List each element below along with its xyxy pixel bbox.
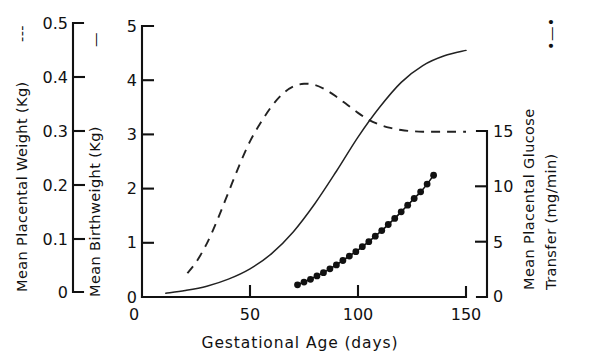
- middle-axis-legend-marker: —: [87, 32, 103, 47]
- series-mean-birthweight: [166, 50, 466, 293]
- x-axis-spine: [142, 287, 466, 297]
- right-axis-spine: [477, 131, 487, 297]
- middle-axis-ticklabel-2: 2: [127, 179, 137, 198]
- right-axis-ticklabel-0: 0: [493, 287, 503, 306]
- left-axis-legend-marker: ---: [14, 25, 30, 42]
- data-point: [411, 195, 418, 202]
- right-axis-title-line1: Mean Placental Glucose: [521, 108, 537, 290]
- data-point: [378, 227, 385, 234]
- data-point: [320, 269, 327, 276]
- chart-canvas: 0.5 0.4 0.3 0.2 0.1 0 Mean Placental Wei…: [0, 0, 591, 360]
- data-point: [346, 253, 353, 260]
- left-axis-spine: [73, 23, 83, 292]
- middle-axis: 5 4 3 2 1 0 Mean Birthweight (Kg) —: [87, 17, 154, 307]
- left-axis-ticklabel-0.1: 0.1: [43, 230, 68, 249]
- data-series-layer: [166, 50, 466, 293]
- middle-axis-title: Mean Birthweight (Kg): [87, 126, 103, 297]
- x-axis-ticklabel-0: 0: [129, 305, 139, 324]
- left-axis-ticklabel-0.5: 0.5: [43, 14, 68, 33]
- data-point: [307, 276, 314, 283]
- left-axis-ticklabel-0.3: 0.3: [43, 122, 68, 141]
- data-point: [404, 202, 411, 209]
- data-point: [314, 273, 321, 280]
- right-axis-ticklabel-15: 15: [493, 122, 513, 141]
- left-axis-ticklabel-0.2: 0.2: [43, 176, 68, 195]
- left-axis-title: Mean Placental Weight (Kg): [14, 81, 30, 292]
- data-point: [391, 215, 398, 222]
- data-point: [333, 262, 340, 269]
- data-point: [365, 238, 372, 245]
- series-glucose-transfer-line: [298, 175, 434, 285]
- data-point: [352, 248, 359, 255]
- x-axis-ticklabel-50: 50: [240, 305, 260, 324]
- right-axis: 15 10 5 0 Mean Placental Glucose Transfe…: [475, 17, 559, 306]
- data-point: [294, 281, 301, 288]
- left-axis: 0.5 0.4 0.3 0.2 0.1 0 Mean Placental Wei…: [14, 14, 85, 302]
- x-axis-ticklabel-150: 150: [451, 305, 482, 324]
- data-point: [417, 188, 424, 195]
- data-point: [430, 172, 437, 179]
- data-point: [339, 257, 346, 264]
- x-axis-title: Gestational Age (days): [201, 334, 398, 352]
- data-point: [398, 208, 405, 215]
- x-axis: 0 50 100 150 Gestational Age (days): [129, 285, 481, 352]
- right-axis-legend-marker: •—•: [543, 17, 559, 50]
- right-axis-ticklabel-5: 5: [493, 233, 503, 252]
- series-mean-placental-weight: [187, 84, 466, 273]
- x-axis-ticklabel-100: 100: [343, 305, 374, 324]
- left-axis-ticklabel-0: 0: [58, 283, 68, 302]
- right-axis-title-line2: Transfer (mg/min): [543, 153, 559, 291]
- data-point: [372, 233, 379, 240]
- data-point: [327, 265, 334, 272]
- data-point: [359, 243, 366, 250]
- chart-figure: 0.5 0.4 0.3 0.2 0.1 0 Mean Placental Wei…: [0, 0, 591, 360]
- middle-axis-spine: [142, 26, 153, 297]
- left-axis-ticklabel-0.4: 0.4: [43, 68, 68, 87]
- right-axis-ticklabel-10: 10: [493, 177, 513, 196]
- middle-axis-ticklabel-3: 3: [127, 125, 137, 144]
- data-point: [301, 279, 308, 286]
- data-point: [424, 181, 431, 188]
- middle-axis-ticklabel-5: 5: [127, 17, 137, 36]
- series-glucose-transfer-markers: [294, 172, 437, 288]
- data-point: [385, 221, 392, 228]
- middle-axis-ticklabel-4: 4: [127, 71, 137, 90]
- middle-axis-ticklabel-1: 1: [127, 233, 137, 252]
